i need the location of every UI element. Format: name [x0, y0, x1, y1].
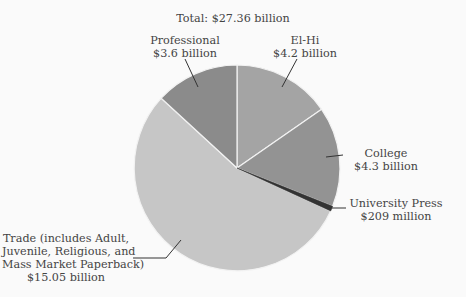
- pie-chart: Total: $27.36 billion Professional $3.6 …: [0, 0, 466, 297]
- chart-title: Total: $27.36 billion: [0, 12, 466, 25]
- label-college: College $4.3 billion: [346, 147, 426, 173]
- label-university-press: University Press $209 million: [346, 197, 446, 223]
- label-professional: Professional $3.6 billion: [140, 34, 230, 60]
- label-trade: Trade (includes Adult, Juvenile, Religio…: [2, 232, 130, 284]
- label-professional-name: Professional: [140, 34, 230, 47]
- label-trade-line3: Mass Market Paperback): [2, 258, 130, 271]
- label-college-name: College: [346, 147, 426, 160]
- label-elhi-name: El-Hi: [266, 34, 344, 47]
- label-university-press-name: University Press: [346, 197, 446, 210]
- label-elhi-value: $4.2 billion: [266, 47, 344, 60]
- label-university-press-value: $209 million: [346, 210, 446, 223]
- label-trade-line1: Trade (includes Adult,: [2, 232, 130, 245]
- label-college-value: $4.3 billion: [346, 160, 426, 173]
- label-professional-value: $3.6 billion: [140, 47, 230, 60]
- label-trade-line2: Juvenile, Religious, and: [2, 245, 130, 258]
- label-elhi: El-Hi $4.2 billion: [266, 34, 344, 60]
- label-trade-value: $15.05 billion: [2, 271, 130, 284]
